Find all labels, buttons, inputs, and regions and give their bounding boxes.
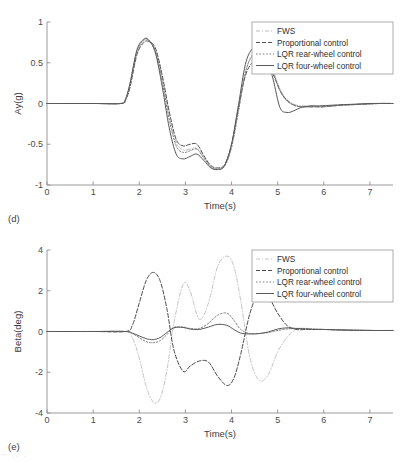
y-tick-label: -4 (35, 408, 43, 418)
x-tick-label: 6 (321, 187, 326, 197)
x-tick-label: 6 (321, 415, 326, 425)
x-tick-label: 2 (137, 415, 142, 425)
x-tick-label: 5 (275, 415, 280, 425)
y-axis-title: Beta(deg) (12, 311, 23, 353)
legend-label: LQR rear-wheel control (277, 278, 362, 287)
x-tick-label: 0 (44, 187, 49, 197)
x-tick-label: 1 (91, 415, 96, 425)
y-axis-title: Ay(g) (12, 92, 23, 115)
y-tick-label: 4 (38, 245, 43, 255)
x-tick-label: 4 (229, 187, 234, 197)
y-tick-label: -0.5 (27, 139, 43, 149)
legend-label: FWS (277, 255, 296, 264)
y-tick-label: -2 (35, 367, 43, 377)
x-tick-label: 0 (44, 415, 49, 425)
legend-label: LQR four-wheel control (277, 62, 361, 71)
x-tick-label: 3 (183, 187, 188, 197)
x-tick-label: 2 (137, 187, 142, 197)
y-tick-label: 1 (38, 17, 43, 27)
chart-e-svg: 01234567-4-2024Time(s)Beta(deg)(e)FWSPro… (0, 228, 402, 462)
x-tick-label: 5 (275, 187, 280, 197)
legend-label: LQR four-wheel control (277, 290, 361, 299)
page-bottom-artifact: ~ .. . (2, 451, 122, 460)
x-axis-title: Time(s) (204, 428, 236, 439)
y-tick-label: 0 (38, 327, 43, 337)
legend-label: LQR rear-wheel control (277, 50, 362, 59)
panel-label: (d) (8, 213, 20, 224)
legend-label: FWS (277, 27, 296, 36)
y-tick-label: 0 (38, 99, 43, 109)
x-tick-label: 7 (367, 187, 372, 197)
legend-label: Proportional control (277, 267, 348, 276)
chart-d-svg: 01234567-1-0.500.51Time(s)Ay(g)(d)FWSPro… (0, 0, 402, 231)
y-tick-label: 0.5 (30, 58, 43, 68)
x-axis-title: Time(s) (204, 200, 236, 211)
x-tick-label: 3 (183, 415, 188, 425)
series-line (47, 313, 393, 343)
figure-container: 01234567-1-0.500.51Time(s)Ay(g)(d)FWSPro… (0, 0, 402, 462)
x-tick-label: 1 (91, 187, 96, 197)
y-tick-label: -1 (35, 180, 43, 190)
legend-label: Proportional control (277, 39, 348, 48)
x-tick-label: 4 (229, 415, 234, 425)
y-tick-label: 2 (38, 286, 43, 296)
chart-panel-d: 01234567-1-0.500.51Time(s)Ay(g)(d)FWSPro… (0, 0, 402, 231)
x-tick-label: 7 (367, 415, 372, 425)
chart-panel-e: 01234567-4-2024Time(s)Beta(deg)(e)FWSPro… (0, 228, 402, 459)
